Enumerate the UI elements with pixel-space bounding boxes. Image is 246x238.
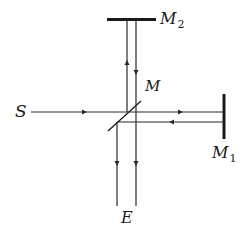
arrow-up-icon [125, 60, 130, 65]
mirror-m1-label-main: M [212, 143, 228, 162]
arrow-down-icon [134, 161, 139, 166]
mirror-m1-label: M1 [212, 145, 236, 161]
arrow-down-icon [134, 70, 139, 75]
arrow-down-icon [115, 161, 120, 166]
mirror-m2-label-sub: 2 [177, 18, 184, 31]
beam-splitter-label: M [145, 79, 160, 94]
diagram-canvas [0, 0, 246, 238]
source-label-text: S [15, 101, 27, 121]
source-label: S [15, 103, 27, 120]
mirror-m1-label-sub: 1 [229, 152, 236, 165]
arrow-right-icon [82, 110, 87, 115]
mirror-m2-label: M2 [160, 11, 184, 27]
arrow-right-icon [178, 110, 183, 115]
interferometer-diagram: S M M2 M1 E [0, 0, 246, 238]
eye-label-text: E [121, 208, 133, 227]
mirror-m2-label-main: M [160, 9, 176, 28]
eye-label: E [121, 210, 133, 226]
arrow-left-icon [169, 120, 174, 125]
beam-splitter-label-text: M [145, 77, 160, 95]
